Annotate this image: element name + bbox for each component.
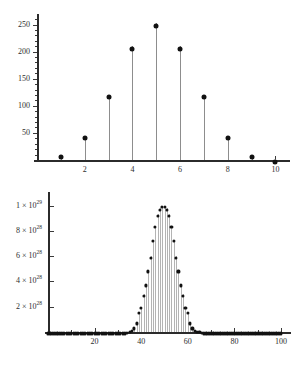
data-point: [144, 284, 147, 287]
stem-line: [176, 256, 177, 332]
data-point: [279, 332, 282, 335]
x-tick-label: 6: [178, 166, 182, 174]
stem-line: [155, 226, 156, 332]
stem-line: [132, 46, 133, 160]
stem-line: [169, 214, 170, 332]
data-point: [249, 155, 254, 160]
stem-line: [146, 284, 147, 332]
y-tick-label: 100: [0, 102, 30, 110]
data-point: [182, 294, 185, 297]
y-tick-label: 150: [0, 75, 30, 83]
data-point: [179, 284, 182, 287]
data-point: [135, 322, 138, 325]
data-point: [189, 322, 192, 325]
data-point: [142, 294, 145, 297]
stem-line: [160, 208, 161, 332]
stem-line: [162, 206, 163, 332]
x-tick-label: 80: [230, 338, 238, 346]
data-point: [149, 256, 152, 259]
y-tick-label: 50: [0, 129, 30, 137]
data-point: [273, 159, 278, 164]
x-tick-label: 4: [130, 166, 134, 174]
stem-line: [183, 294, 184, 332]
data-point: [201, 95, 206, 100]
binomial-stem-plot-n10: 50100150200250246810: [0, 0, 299, 184]
stem-line: [181, 284, 182, 332]
y-tick-label: 8 × 1028: [0, 227, 42, 235]
data-point: [151, 240, 154, 243]
stem-line: [109, 95, 110, 160]
data-point: [170, 226, 173, 229]
stem-line: [151, 256, 152, 332]
data-point: [178, 46, 183, 51]
plot-area-top: 50100150200250246810: [0, 0, 299, 184]
data-point: [82, 136, 87, 141]
data-point: [106, 95, 111, 100]
x-tick-label: 8: [226, 166, 230, 174]
data-point: [154, 226, 157, 229]
data-point: [184, 307, 187, 310]
stem-line: [158, 214, 159, 332]
stem-line: [148, 270, 149, 332]
data-point: [137, 312, 140, 315]
x-tick-label: 10: [271, 166, 279, 174]
y-tick-label: 2 × 1028: [0, 303, 42, 311]
data-point: [130, 46, 135, 51]
stem-line: [174, 240, 175, 332]
stem-line: [178, 270, 179, 332]
stem-line: [167, 208, 168, 332]
x-tick-label: 20: [91, 338, 99, 346]
stem-line: [153, 240, 154, 332]
data-point: [165, 208, 168, 211]
stem-line: [204, 95, 205, 160]
stem-line: [139, 312, 140, 332]
data-point: [156, 214, 159, 217]
stem-line: [156, 23, 157, 160]
y-tick-label: 1 × 1029: [0, 202, 42, 210]
data-point: [175, 256, 178, 259]
data-point: [158, 208, 161, 211]
plot-area-bottom: 2 × 10284 × 10286 × 10288 × 10281 × 1029…: [0, 184, 299, 368]
y-tick-label: 250: [0, 21, 30, 29]
stem-line: [165, 206, 166, 332]
y-tick-label: 200: [0, 48, 30, 56]
y-tick-label: 4 × 1028: [0, 277, 42, 285]
data-point: [140, 307, 143, 310]
stem-line: [180, 46, 181, 160]
data-point: [154, 23, 159, 28]
data-point: [147, 270, 150, 273]
data-point: [58, 155, 63, 160]
x-tick-label: 40: [137, 338, 145, 346]
data-point: [225, 136, 230, 141]
binomial-stem-plot-n100: 2 × 10284 × 10286 × 10288 × 10281 × 1029…: [0, 184, 299, 368]
data-point: [168, 214, 171, 217]
stem-line: [141, 307, 142, 332]
y-tick-label: 6 × 1028: [0, 252, 42, 260]
data-point: [172, 240, 175, 243]
x-tick-label: 2: [83, 166, 87, 174]
data-point: [186, 312, 189, 315]
x-tick-label: 100: [275, 338, 287, 346]
data-point: [177, 270, 180, 273]
x-tick-label: 60: [184, 338, 192, 346]
data-point: [133, 327, 136, 330]
stem-line: [185, 307, 186, 332]
stem-line: [144, 294, 145, 332]
